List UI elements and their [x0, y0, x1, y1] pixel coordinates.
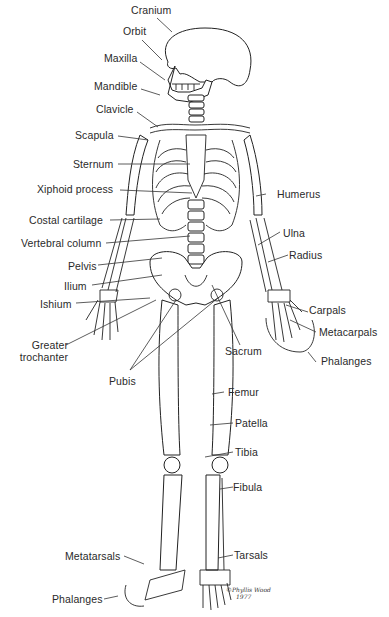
signature-name: ©Phyllis Wood [226, 586, 271, 593]
signature-year: 1977 [226, 593, 271, 600]
label-humerus: Humerus [277, 188, 320, 200]
label-vertebral-column: Vertebral column [21, 237, 101, 249]
label-greater-trochanter-line1: Greater [24, 339, 68, 351]
label-ulna: Ulna [283, 227, 305, 239]
label-clavicle: Clavicle [96, 103, 134, 115]
label-patella: Patella [235, 417, 268, 429]
label-sternum: Sternum [73, 158, 113, 170]
label-maxilla: Maxilla [104, 52, 137, 64]
right-arm [244, 135, 314, 352]
neck-vertebrae [188, 95, 204, 122]
label-mandible: Mandible [94, 80, 137, 92]
label-metatarsals: Metatarsals [65, 550, 120, 562]
skeleton-diagram: Cranium Orbit Maxilla Mandible Clavicle … [0, 0, 389, 617]
label-costal-cartilage: Costal cartilage [29, 214, 103, 226]
label-femur: Femur [228, 386, 259, 398]
label-tarsals: Tarsals [234, 549, 268, 561]
label-scapula: Scapula [75, 129, 114, 141]
label-cranium: Cranium [131, 4, 171, 16]
label-radius: Radius [289, 249, 322, 261]
label-ishium: Ishium [40, 298, 72, 310]
lumbar-vertebrae [188, 200, 204, 264]
label-pelvis: Pelvis [68, 260, 97, 272]
skull [165, 28, 251, 102]
label-orbit: Orbit [123, 25, 146, 37]
label-tibia: Tibia [235, 446, 258, 458]
label-phalanges-hand: Phalanges [321, 355, 372, 367]
label-metacarpals: Metacarpals [319, 326, 377, 338]
label-fibula: Fibula [233, 481, 262, 493]
label-ilium: Ilium [64, 280, 87, 292]
label-pubis: Pubis [109, 375, 136, 387]
label-phalanges-foot: Phalanges [52, 593, 103, 605]
label-sacrum: Sacrum [225, 345, 262, 357]
label-xiphoid-process: Xiphoid process [37, 183, 113, 195]
artist-signature: ©Phyllis Wood 1977 [226, 586, 271, 600]
label-greater-trochanter-line2: trochanter [12, 351, 68, 363]
label-carpals: Carpals [309, 304, 346, 316]
